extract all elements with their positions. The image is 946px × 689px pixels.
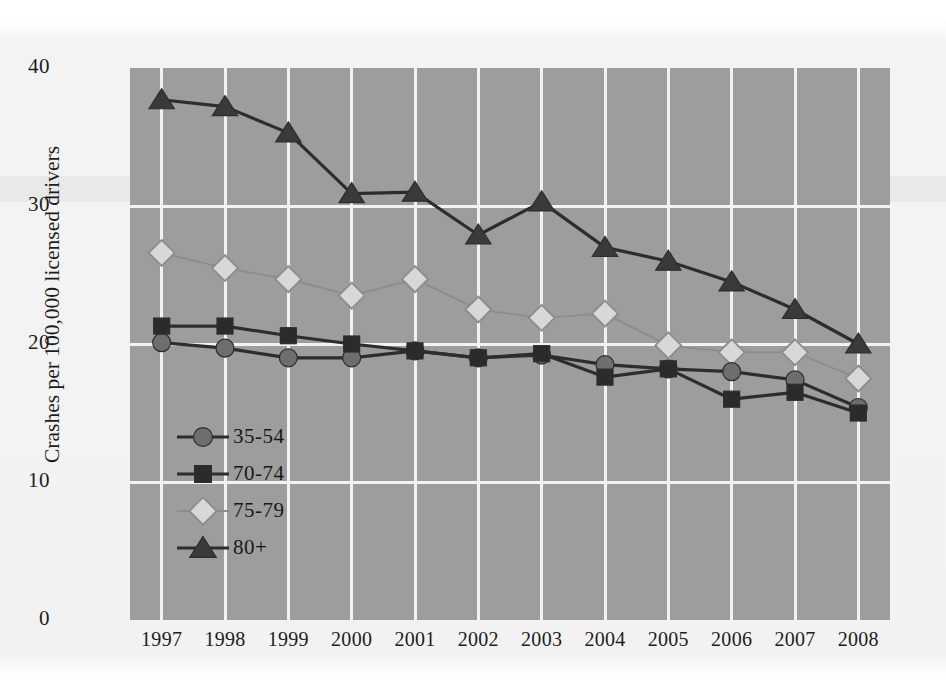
series-line-70-74 — [162, 326, 859, 413]
series-35-54 — [153, 334, 868, 417]
legend-marker-square-icon — [195, 466, 212, 483]
series-70-74 — [154, 318, 867, 421]
datapoint-70-74-2004 — [597, 369, 613, 385]
datapoint-80+-2007 — [782, 299, 807, 319]
datapoint-35-54-1997 — [153, 334, 171, 352]
datapoint-35-54-1998 — [216, 339, 234, 357]
y-tick-40: 40 — [0, 54, 50, 79]
datapoint-75-79-2008 — [845, 366, 871, 392]
legend-swatch-square-icon — [175, 457, 231, 491]
datapoint-80+-2008 — [846, 333, 871, 353]
legend-item-70-74: 70-74 — [175, 457, 355, 494]
datapoint-75-79-2000 — [339, 283, 365, 309]
y-tick-10: 10 — [0, 468, 50, 493]
chart-legend: 35-5470-7475-7980+ — [175, 420, 355, 568]
legend-swatch-triangle-icon — [175, 531, 231, 565]
datapoint-75-79-2004 — [592, 301, 618, 327]
series-75-79 — [149, 240, 872, 392]
chart-page: Crashes per 100,000 licensed drivers 010… — [0, 0, 946, 689]
datapoint-80+-2006 — [719, 271, 744, 291]
datapoint-70-74-2008 — [850, 405, 866, 421]
datapoint-35-54-2006 — [723, 363, 741, 381]
legend-swatch-circle-icon — [175, 420, 231, 454]
legend-label-80+: 80+ — [233, 535, 267, 560]
datapoint-70-74-1997 — [154, 318, 170, 334]
legend-label-70-74: 70-74 — [233, 461, 285, 486]
datapoint-75-79-2006 — [719, 339, 745, 365]
legend-label-35-54: 35-54 — [233, 424, 285, 449]
datapoint-70-74-2000 — [344, 336, 360, 352]
datapoint-35-54-1999 — [279, 349, 297, 367]
datapoint-75-79-2003 — [529, 305, 555, 331]
datapoint-75-79-1999 — [275, 266, 301, 292]
datapoint-75-79-1997 — [149, 240, 175, 266]
legend-marker-circle-icon — [194, 428, 213, 447]
x-tick-2008: 2008 — [818, 628, 898, 651]
legend-item-80+: 80+ — [175, 531, 355, 568]
y-tick-30: 30 — [0, 192, 50, 217]
datapoint-80+-1997 — [149, 89, 174, 109]
datapoint-75-79-2005 — [655, 332, 681, 358]
datapoint-70-74-2001 — [407, 343, 423, 359]
datapoint-70-74-1999 — [280, 328, 296, 344]
datapoint-80+-2003 — [529, 191, 554, 211]
legend-label-75-79: 75-79 — [233, 498, 285, 523]
datapoint-70-74-2007 — [787, 384, 803, 400]
series-line-75-79 — [162, 253, 859, 379]
datapoint-75-79-2002 — [465, 297, 491, 323]
y-tick-20: 20 — [0, 330, 50, 355]
datapoint-70-74-1998 — [217, 318, 233, 334]
datapoint-70-74-2006 — [724, 391, 740, 407]
datapoint-70-74-2002 — [470, 350, 486, 366]
legend-marker-diamond-icon — [189, 497, 216, 524]
datapoint-75-79-2007 — [782, 339, 808, 365]
legend-item-35-54: 35-54 — [175, 420, 355, 457]
datapoint-70-74-2003 — [534, 346, 550, 362]
datapoint-80+-2002 — [466, 224, 491, 244]
y-tick-0: 0 — [0, 606, 50, 631]
datapoint-75-79-2001 — [402, 266, 428, 292]
legend-item-75-79: 75-79 — [175, 494, 355, 531]
datapoint-70-74-2005 — [660, 361, 676, 377]
series-line-80+ — [162, 100, 859, 344]
datapoint-75-79-1998 — [212, 255, 238, 281]
datapoint-80+-1999 — [276, 122, 301, 142]
legend-swatch-diamond-icon — [175, 494, 231, 528]
